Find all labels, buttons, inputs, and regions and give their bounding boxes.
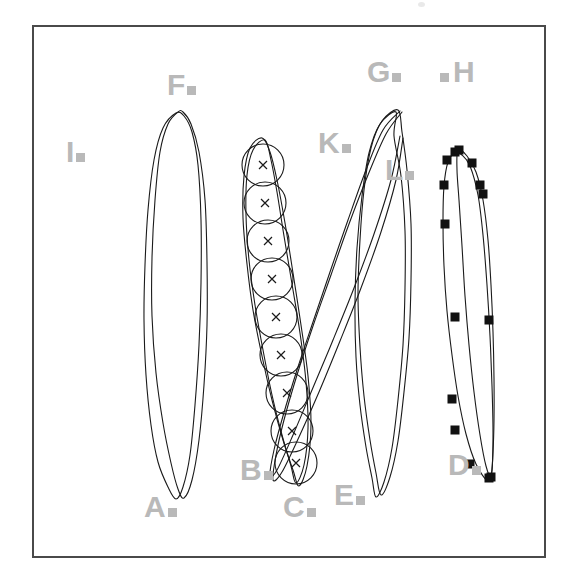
label-square-marker bbox=[307, 508, 316, 517]
curve-label-g: G bbox=[367, 57, 401, 87]
curve-label-text: A bbox=[144, 490, 166, 523]
square-marker bbox=[451, 426, 460, 435]
curve-label-a: A bbox=[144, 492, 177, 522]
square-marker bbox=[468, 159, 477, 168]
label-square-marker bbox=[187, 86, 196, 95]
curve-label-text: C bbox=[283, 490, 305, 523]
label-square-marker bbox=[264, 471, 273, 480]
square-marker bbox=[476, 181, 485, 190]
square-marker bbox=[455, 146, 464, 155]
square-marker bbox=[441, 220, 450, 229]
curve-label-l: L bbox=[385, 155, 414, 185]
curve-label-b: B bbox=[240, 455, 273, 485]
curve-label-text: K bbox=[318, 126, 340, 159]
curve-label-f: F bbox=[167, 70, 196, 100]
square-marker bbox=[487, 473, 496, 482]
square-marker bbox=[440, 181, 449, 190]
curve-label-text: H bbox=[453, 55, 475, 88]
curve-label-text: D bbox=[448, 448, 470, 481]
curve-label-text: G bbox=[367, 55, 390, 88]
label-square-marker bbox=[76, 153, 85, 162]
label-square-marker bbox=[392, 73, 401, 82]
curve-label-h: H bbox=[440, 57, 475, 87]
square-marker bbox=[485, 316, 494, 325]
curve-label-k: K bbox=[318, 128, 351, 158]
curve-label-text: I bbox=[66, 135, 74, 168]
label-square-marker bbox=[405, 171, 414, 180]
square-marker bbox=[479, 190, 488, 199]
curve-label-d: D bbox=[448, 450, 481, 480]
figure-canvas: ABCDEFGHIKL bbox=[0, 0, 570, 582]
square-marker bbox=[451, 313, 460, 322]
curve-label-text: F bbox=[167, 68, 185, 101]
label-square-marker bbox=[440, 73, 449, 82]
curve-label-text: L bbox=[385, 153, 403, 186]
label-square-marker bbox=[168, 508, 177, 517]
label-square-marker bbox=[356, 496, 365, 505]
square-marker bbox=[443, 156, 452, 165]
curve-label-e: E bbox=[334, 480, 365, 510]
curve-label-c: C bbox=[283, 492, 316, 522]
label-square-marker bbox=[472, 466, 481, 475]
square-marker bbox=[448, 395, 457, 404]
curve-label-i: I bbox=[66, 137, 85, 167]
curve-label-text: B bbox=[240, 453, 262, 486]
label-square-marker bbox=[342, 144, 351, 153]
curve-label-text: E bbox=[334, 478, 354, 511]
